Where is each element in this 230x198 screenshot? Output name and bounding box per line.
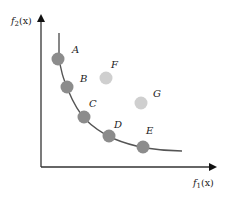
x-axis-label: f1(x) xyxy=(192,177,214,190)
y-axis-label: f2(x) xyxy=(10,15,32,28)
label-e: E xyxy=(145,125,154,136)
point-b xyxy=(61,81,74,94)
point-f xyxy=(100,72,113,85)
label-f: F xyxy=(110,59,119,70)
point-a xyxy=(52,53,65,66)
label-b: B xyxy=(79,73,87,84)
point-c xyxy=(78,111,91,124)
point-d xyxy=(103,130,116,143)
label-g: G xyxy=(153,88,161,99)
label-c: C xyxy=(89,98,97,109)
point-g xyxy=(135,97,148,110)
label-a: A xyxy=(71,44,79,55)
label-d: D xyxy=(113,119,122,130)
pareto-diagram: f2(x) f1(x) A B C D E F G xyxy=(0,0,230,198)
point-e xyxy=(137,141,150,154)
